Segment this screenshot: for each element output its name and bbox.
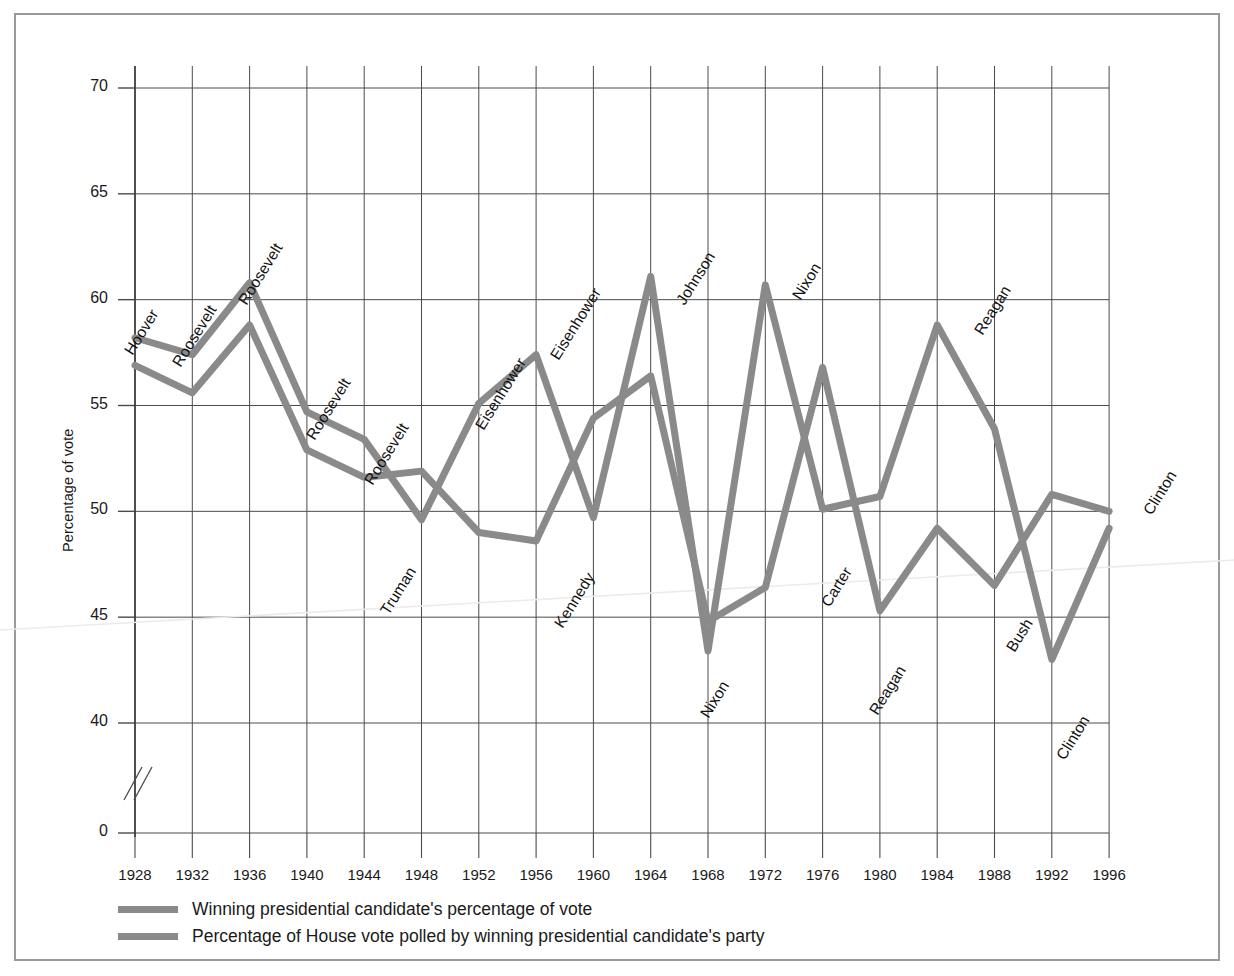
x-tick-label: 1968 bbox=[678, 866, 738, 883]
x-tick-label: 1948 bbox=[392, 866, 452, 883]
x-tick-label: 1956 bbox=[506, 866, 566, 883]
legend: Winning presidential candidate's percent… bbox=[118, 896, 764, 950]
y-tick-label: 65 bbox=[68, 183, 108, 201]
plot-area bbox=[0, 0, 1234, 976]
x-tick-label: 1992 bbox=[1022, 866, 1082, 883]
x-tick-label: 1996 bbox=[1079, 866, 1139, 883]
x-tick-label: 1952 bbox=[449, 866, 509, 883]
x-tick-label: 1928 bbox=[105, 866, 165, 883]
axis-break-mark bbox=[124, 767, 142, 800]
y-tick-label: 45 bbox=[68, 606, 108, 624]
y-tick-label: 55 bbox=[68, 395, 108, 413]
x-tick-label: 1936 bbox=[220, 866, 280, 883]
axis-break-mark bbox=[134, 767, 152, 800]
x-tick-label: 1964 bbox=[621, 866, 681, 883]
legend-item: Percentage of House vote polled by winni… bbox=[118, 923, 764, 950]
legend-item: Winning presidential candidate's percent… bbox=[118, 896, 764, 923]
y-tick-label: 50 bbox=[68, 500, 108, 518]
legend-swatch-house bbox=[118, 933, 178, 940]
x-tick-label: 1984 bbox=[907, 866, 967, 883]
legend-swatch-president bbox=[118, 906, 178, 913]
y-tick-label: 60 bbox=[68, 289, 108, 307]
legend-label-house: Percentage of House vote polled by winni… bbox=[192, 926, 764, 947]
scan-artifact-line bbox=[0, 560, 1234, 630]
y-tick-label: 0 bbox=[68, 822, 108, 840]
y-tick-label: 70 bbox=[68, 77, 108, 95]
chart-page: Percentage of vote 706560555045400 19281… bbox=[0, 0, 1234, 976]
x-tick-label: 1976 bbox=[793, 866, 853, 883]
x-tick-label: 1972 bbox=[735, 866, 795, 883]
legend-label-president: Winning presidential candidate's percent… bbox=[192, 899, 592, 920]
series-line-president bbox=[135, 276, 1109, 659]
x-tick-label: 1980 bbox=[850, 866, 910, 883]
x-tick-label: 1960 bbox=[563, 866, 623, 883]
chart-svg bbox=[0, 0, 1234, 976]
x-tick-label: 1944 bbox=[334, 866, 394, 883]
x-tick-label: 1940 bbox=[277, 866, 337, 883]
x-tick-label: 1932 bbox=[162, 866, 222, 883]
y-tick-label: 40 bbox=[68, 712, 108, 730]
x-tick-label: 1988 bbox=[965, 866, 1025, 883]
